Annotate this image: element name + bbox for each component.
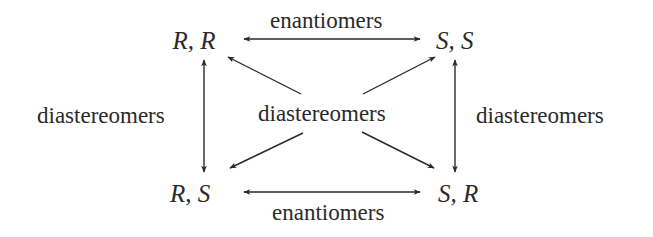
- label-bottom-enantiomers: enantiomers: [272, 201, 384, 224]
- node-ss: S, S: [436, 28, 474, 53]
- node-rs: R, S: [170, 181, 210, 206]
- label-right-diastereomers: diastereomers: [476, 104, 604, 127]
- center-to-top-left-arrow: [228, 57, 301, 94]
- label-center-diastereomers: diastereomers: [258, 102, 386, 125]
- node-rr: R, R: [170, 28, 218, 53]
- label-left-diastereomers: diastereomers: [37, 104, 165, 127]
- center-to-top-right-arrow: [363, 57, 435, 94]
- stereoisomer-diagram: R, R S, S R, S S, R enantiomers enantiom…: [0, 0, 653, 237]
- node-sr: S, R: [438, 181, 478, 206]
- center-to-bottom-right-arrow: [362, 132, 434, 168]
- center-to-bottom-left-arrow: [230, 133, 303, 168]
- label-top-enantiomers: enantiomers: [270, 9, 382, 32]
